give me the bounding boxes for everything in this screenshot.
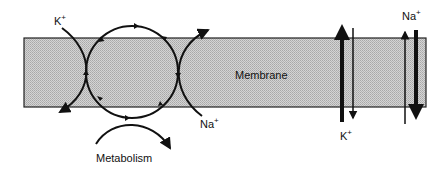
- membrane: [24, 38, 426, 107]
- k-channel-label: K+: [340, 128, 352, 142]
- k-pump-label: K+: [54, 13, 66, 27]
- membrane-transport-diagram: Membrane K+ Na+ Metabolism K+ Na+: [0, 0, 448, 172]
- metabolism-label: Metabolism: [96, 152, 152, 164]
- metabolism-arrow: [96, 125, 170, 148]
- membrane-label: Membrane: [235, 69, 288, 81]
- na-pump-label: Na+: [200, 116, 219, 130]
- na-channel-label: Na+: [402, 8, 421, 22]
